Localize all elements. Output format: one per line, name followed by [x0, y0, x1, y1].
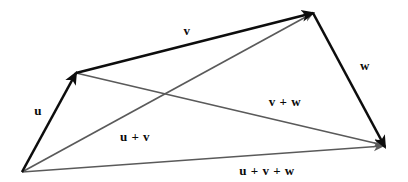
label-u-plus-v-plus-w: u + v + w	[239, 163, 295, 178]
label-u-plus-v: u + v	[120, 129, 150, 144]
label-u: u	[34, 103, 42, 118]
label-v: v	[184, 23, 191, 38]
label-v-plus-w: v + w	[269, 94, 301, 109]
diagram-background	[0, 0, 408, 182]
label-w: w	[360, 58, 370, 73]
vector-diagram: u v w u + v v + w u + v + w	[0, 0, 408, 182]
vector-diagram-canvas: u v w u + v v + w u + v + w	[0, 0, 408, 182]
